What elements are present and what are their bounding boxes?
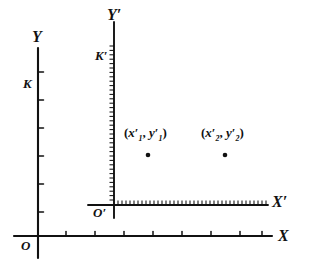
point-1-close: ) [162,125,166,140]
point-1-label: (x′1, y′1) [124,126,167,143]
y-prime-axis-group [110,22,115,218]
y-axis-group [38,48,44,258]
origin-primed-label-text: O′ [93,206,106,219]
scale-k-prime-label: K′ [95,49,107,62]
figure-canvas: Y K X O Y′ K′ X′ O O′ (x′1, y′1) (x′2, y… [0,0,311,271]
point-1-marker [146,153,151,158]
y-axis-label: Y [32,29,42,45]
point-2-label: (x′2, y′2) [201,126,244,143]
scale-k-label: K [23,77,32,90]
origin-unprimed-label: O [21,239,30,252]
point-2-marker [223,153,228,158]
point-2-close: ) [239,125,243,140]
x-axis-group [14,232,272,237]
x-axis-label: X [278,228,289,244]
x-prime-axis-label: X′ [272,194,287,210]
x-prime-axis-group [88,201,268,206]
y-prime-axis-label: Y′ [107,7,121,23]
